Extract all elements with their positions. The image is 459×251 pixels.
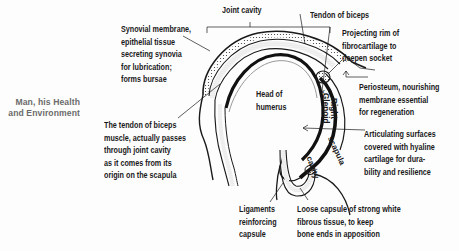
label-line: humerus bbox=[256, 101, 286, 114]
label-line: muscle, actually passes bbox=[104, 132, 186, 145]
label-joint-cavity: Joint cavity bbox=[222, 4, 262, 17]
label-line: as it comes from its bbox=[104, 157, 186, 170]
label-line: Synovial membrane, bbox=[121, 23, 191, 36]
label-line: reinforcing bbox=[239, 216, 277, 229]
label-line: The tendon of biceps bbox=[104, 119, 186, 132]
label-line: Periosteum, nourishing bbox=[359, 81, 439, 94]
label-line: cartilage for dura- bbox=[364, 153, 436, 166]
label-line: through joint cavity bbox=[104, 144, 186, 157]
label-glenoid: Glenoid bbox=[321, 93, 330, 123]
label-ligaments: Ligaments reinforcing capsule bbox=[239, 203, 277, 241]
label-line: Tendon of biceps bbox=[310, 9, 369, 22]
label-periosteum: Periosteum, nourishing membrane essentia… bbox=[359, 81, 439, 119]
label-line: Projecting rim of bbox=[342, 27, 399, 40]
label-line: forms bursae bbox=[121, 73, 191, 86]
label-head-of-humerus: Head of humerus bbox=[256, 88, 286, 113]
label-line: membrane essential bbox=[359, 94, 439, 107]
label-tendon-passes: The tendon of biceps muscle, actually pa… bbox=[104, 119, 186, 182]
label-line: capsule bbox=[239, 228, 277, 241]
label-line: Articulating surfaces bbox=[364, 128, 436, 141]
label-line: epithelial tissue bbox=[121, 36, 191, 49]
label-line: fibrocartilage to bbox=[342, 40, 399, 53]
label-line: covered with hyaline bbox=[364, 141, 436, 154]
label-line: for lubrication; bbox=[121, 61, 191, 74]
label-line: bility and resilience bbox=[364, 166, 436, 179]
label-line: for regeneration bbox=[359, 106, 439, 119]
label-line: deepen socket bbox=[342, 52, 399, 65]
label-line: Loose capsule of strong white bbox=[297, 203, 401, 216]
label-loose-capsule: Loose capsule of strong white fibrous ti… bbox=[297, 203, 401, 241]
label-line: origin on the scapula bbox=[104, 169, 186, 182]
label-line: Ligaments bbox=[239, 203, 277, 216]
label-tendon-of-biceps: Tendon of biceps bbox=[310, 9, 369, 22]
label-line: bone ends in apposition bbox=[297, 228, 401, 241]
label-synovial-membrane: Synovial membrane, epithelial tissue sec… bbox=[121, 23, 191, 86]
label-line: Head of bbox=[256, 88, 286, 101]
label-line: secreting synovia bbox=[121, 48, 191, 61]
label-articulating-surfaces: Articulating surfaces covered with hyali… bbox=[364, 128, 436, 178]
label-line: fibrous tissue, to keep bbox=[297, 216, 401, 229]
page: Man, his Health and Environment bbox=[0, 0, 459, 251]
label-right: Right bbox=[329, 98, 338, 119]
label-projecting-rim: Projecting rim of fibrocartilage to deep… bbox=[342, 27, 399, 65]
label-line: Joint cavity bbox=[222, 4, 262, 17]
